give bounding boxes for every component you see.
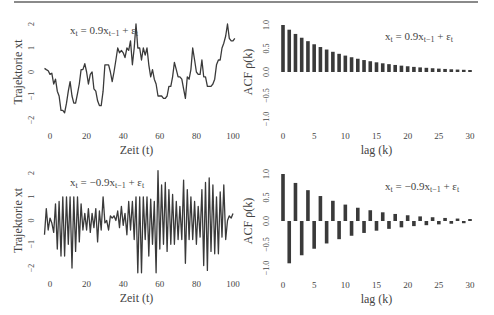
acf-bar xyxy=(450,69,454,72)
x-tick-label: 15 xyxy=(372,280,382,290)
acf-bar xyxy=(375,62,379,72)
acf-bar xyxy=(412,221,416,226)
y-tick-label: 0 xyxy=(27,219,36,223)
x-axis-label: lag (k) xyxy=(361,292,393,306)
formula-annotation: xt​ = −0.9xt−1​ + εt​ xyxy=(70,176,145,190)
acf-bar xyxy=(344,205,348,221)
x-tick-label: 0 xyxy=(281,131,286,141)
acf-bar xyxy=(418,216,422,221)
formula-annotation: xt​ = −0.9xt−1​ + εt​ xyxy=(385,180,460,194)
x-tick-label: 40 xyxy=(119,279,129,289)
acf-bar xyxy=(350,57,354,72)
y-tick-label: −1.0 xyxy=(262,261,271,276)
x-tick-label: 60 xyxy=(155,131,165,141)
x-tick-label: 0 xyxy=(48,279,53,289)
x-tick-label: 20 xyxy=(403,280,413,290)
acf-bar xyxy=(331,201,335,221)
x-tick-label: 20 xyxy=(403,131,413,141)
acf-bar xyxy=(468,70,472,72)
acf-bar xyxy=(450,221,454,224)
acf-bar xyxy=(381,212,385,221)
y-tick-label: 1 xyxy=(27,195,36,199)
x-tick-label: 40 xyxy=(119,131,129,141)
y-tick-label: 2 xyxy=(27,22,36,26)
y-axis-label: ACF ρ(k) xyxy=(241,198,255,244)
acf-bar xyxy=(319,196,323,221)
acf-bar xyxy=(425,68,429,72)
y-axis-label: Trajektorie xt xyxy=(11,187,25,253)
acf-bar xyxy=(456,70,460,72)
x-tick-label: 25 xyxy=(434,280,444,290)
y-tick-label: 0.5 xyxy=(262,193,271,203)
x-tick-label: 80 xyxy=(192,279,202,289)
y-tick-label: 1.0 xyxy=(262,169,271,179)
acf-bar xyxy=(281,25,285,72)
y-tick-label: 0.0 xyxy=(262,67,271,77)
acf-bar xyxy=(443,218,447,221)
x-tick-label: 25 xyxy=(434,131,444,141)
acf-bar xyxy=(368,210,372,221)
acf-bar xyxy=(294,34,298,72)
acf-bar xyxy=(362,60,366,72)
acf-bar xyxy=(319,47,323,72)
acf-bar xyxy=(425,221,429,225)
y-axis-label: Trajektorie xt xyxy=(11,39,25,105)
acf-bar xyxy=(406,66,410,72)
acf-bar xyxy=(306,190,310,221)
acf-bar xyxy=(356,59,360,72)
acf-bar xyxy=(368,61,372,72)
series-line xyxy=(45,24,235,113)
x-tick-label: 5 xyxy=(312,131,317,141)
acf-bar xyxy=(412,67,416,72)
chart-panel-2: −1.0−0.50.00.51.0051015202530lag (k)ACF … xyxy=(241,20,475,157)
acf-bar xyxy=(406,215,410,221)
acf-bar xyxy=(375,221,379,231)
y-tick-label: 2 xyxy=(27,171,36,175)
formula-annotation: xt​ = 0.9xt−1​ + εt​ xyxy=(70,24,139,38)
x-tick-label: 100 xyxy=(226,131,240,141)
acf-bar xyxy=(400,66,404,72)
acf-bar xyxy=(344,56,348,72)
y-tick-label: 1 xyxy=(27,46,36,50)
acf-bar xyxy=(393,214,397,221)
acf-bar xyxy=(393,65,397,72)
acf-bar xyxy=(437,69,441,72)
acf-bar xyxy=(350,221,354,236)
y-tick-label: 0 xyxy=(27,70,36,74)
y-tick-label: −2 xyxy=(27,264,36,273)
y-tick-label: 0.0 xyxy=(262,216,271,226)
x-tick-label: 20 xyxy=(82,279,92,289)
acf-bar xyxy=(325,50,329,72)
acf-bar xyxy=(300,38,304,72)
acf-bar xyxy=(443,69,447,72)
x-axis-label: Zeit (t) xyxy=(120,291,154,305)
acf-bar xyxy=(312,221,316,249)
acf-bar xyxy=(294,183,298,221)
x-tick-label: 10 xyxy=(341,280,351,290)
acf-bar xyxy=(306,41,310,72)
x-tick-label: 15 xyxy=(372,131,382,141)
acf-bar xyxy=(337,221,341,239)
acf-bar xyxy=(312,44,316,72)
x-tick-label: 5 xyxy=(312,280,317,290)
x-tick-label: 20 xyxy=(82,131,92,141)
y-tick-label: −0.5 xyxy=(262,237,271,252)
acf-bar xyxy=(431,217,435,221)
x-tick-label: 60 xyxy=(155,279,165,289)
figure-canvas: −2−1012020406080100Zeit (t)Trajektorie x… xyxy=(0,0,494,315)
y-tick-label: 1.0 xyxy=(262,20,271,30)
x-axis-label: lag (k) xyxy=(361,143,393,157)
x-tick-label: 80 xyxy=(192,131,202,141)
y-tick-label: −2 xyxy=(27,116,36,125)
acf-bar xyxy=(331,52,335,72)
acf-bar xyxy=(468,219,472,221)
acf-bar xyxy=(325,221,329,243)
chart-panel-3: −2−1012020406080100Zeit (t)Trajektorie x… xyxy=(11,171,240,305)
acf-bar xyxy=(462,70,466,72)
formula-annotation: xt​ = 0.9xt−1​ + εt​ xyxy=(385,30,454,44)
x-tick-label: 10 xyxy=(341,131,351,141)
chart-panel-4: −1.0−0.50.00.51.0051015202530lag (k)ACF … xyxy=(241,169,475,306)
y-tick-label: −1 xyxy=(27,240,36,249)
x-tick-label: 100 xyxy=(226,279,240,289)
acf-bar xyxy=(287,221,291,263)
